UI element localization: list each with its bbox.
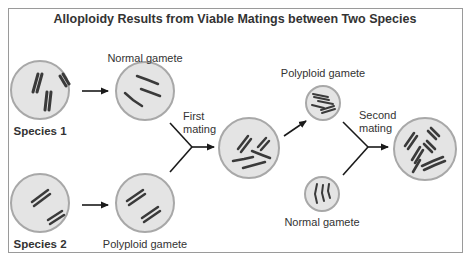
second-mating-label-line2: mating (359, 122, 392, 134)
species2-cell (11, 174, 69, 232)
allopolyploid-cell (394, 118, 456, 180)
polyploid-gamete-label-bottom: Polyploid gamete (103, 238, 187, 250)
normal-gamete-label-right: Normal gamete (284, 216, 359, 228)
second-mating-label-line1: Second (359, 109, 396, 121)
hybrid-cell (219, 118, 279, 178)
normal-gamete-label-top: Normal gamete (107, 52, 182, 64)
first-mating-label-line2: mating (183, 123, 216, 135)
species1-label: Species 1 (13, 125, 66, 137)
first-mating-label-line1: First (183, 110, 204, 122)
alloploidy-diagram (0, 0, 470, 263)
species2-label: Species 2 (13, 238, 66, 250)
normal-gamete-cell-right (305, 177, 339, 211)
polyploid-gamete-cell-bottom (116, 174, 174, 232)
species1-cell (11, 61, 69, 119)
normal-gamete-cell-top (116, 62, 174, 120)
arrow-hybrid-to-polyploid-gamete (284, 121, 306, 136)
polyploid-gamete-cell-right (306, 86, 340, 120)
polyploid-gamete-label-right: Polyploid gamete (281, 67, 365, 79)
